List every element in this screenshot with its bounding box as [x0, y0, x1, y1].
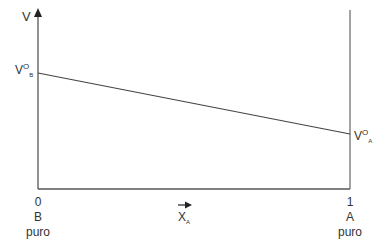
- left-tick-state: puro: [26, 226, 50, 238]
- left-tick-component: B: [34, 211, 42, 223]
- vb-label: VOB: [15, 63, 33, 78]
- vb-base: V: [15, 63, 23, 77]
- y-axis-label: V: [22, 10, 31, 23]
- right-tick-component: A: [346, 211, 354, 223]
- vb-sub: B: [29, 72, 33, 78]
- vb-sup: O: [23, 62, 29, 71]
- xa-arrow-icon: [185, 202, 192, 209]
- diagram-canvas: [0, 0, 383, 245]
- va-label: VOA: [354, 129, 372, 144]
- right-tick-value: 1: [347, 196, 354, 208]
- va-sub: A: [368, 138, 372, 144]
- right-tick-state: puro: [338, 226, 362, 238]
- volume-line: [38, 73, 350, 134]
- xa-label: XA: [178, 211, 190, 225]
- y-axis-arrow-icon: [34, 8, 42, 17]
- left-tick-value: 0: [35, 196, 42, 208]
- xa-sub: A: [186, 219, 190, 225]
- va-sup: O: [362, 128, 368, 137]
- xa-base: X: [178, 210, 186, 224]
- va-base: V: [354, 129, 362, 143]
